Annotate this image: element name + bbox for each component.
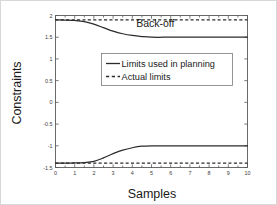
x-tick-label: 4 [131, 170, 134, 176]
y-tick-label: 2 [50, 13, 53, 19]
y-tick-label: 0 [50, 99, 53, 105]
x-tick-label: 1 [73, 170, 76, 176]
x-tick-label: 5 [150, 170, 153, 176]
y-tick-label: 1 [50, 56, 53, 62]
x-tick-label: 2 [92, 170, 95, 176]
y-tick-label: -1 [48, 143, 53, 149]
y-axis-ticks: 21.510.50-0.5-1-1.5 [43, 13, 247, 171]
y-tick-label: -1.5 [43, 165, 52, 171]
chart-legend: Limits used in planning Actual limits [102, 54, 233, 86]
data-series-group [56, 20, 248, 163]
chart-canvas: 21.510.50-0.5-1-1.5 012345678910 Back-of… [1, 1, 277, 205]
x-tick-label: 9 [227, 170, 230, 176]
axis-frame [56, 16, 248, 168]
x-axis-ticks: 012345678910 [54, 16, 251, 177]
x-tick-label: 7 [188, 170, 191, 176]
x-tick-label: 10 [245, 170, 251, 176]
x-tick-label: 6 [169, 170, 172, 176]
y-tick-label: 1.5 [45, 34, 53, 40]
annotation-back-off: Back-off [136, 17, 174, 29]
y-axis-title: Constraints [10, 61, 24, 124]
figure-container: 21.510.50-0.5-1-1.5 012345678910 Back-of… [0, 0, 277, 205]
x-tick-label: 0 [54, 170, 57, 176]
x-tick-label: 8 [208, 170, 211, 176]
legend-label-actual-limits: Actual limits [122, 72, 171, 82]
x-axis-title: Samples [128, 187, 177, 201]
x-tick-label: 3 [112, 170, 115, 176]
y-tick-label: 0.5 [45, 78, 53, 84]
series-line [56, 146, 248, 163]
plot-area [56, 16, 248, 168]
legend-label-limits-used-in-planning: Limits used in planning [122, 59, 215, 69]
y-tick-label: -0.5 [43, 121, 52, 127]
